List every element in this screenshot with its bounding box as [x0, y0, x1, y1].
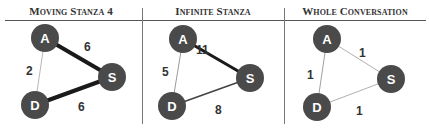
edge-weight-label: 1: [307, 68, 314, 82]
node-label: S: [387, 72, 396, 87]
network-graphs: 626ASD1158ASD111ASD: [0, 0, 429, 130]
node-label: A: [178, 32, 188, 47]
graph-panel-1: 1158ASD: [158, 25, 264, 120]
edge-weight-label: 5: [162, 65, 169, 79]
edge-weight-label: 6: [84, 40, 91, 54]
node-label: D: [167, 99, 176, 114]
graph-panel-0: 626ASD: [21, 24, 126, 119]
node-label: A: [322, 32, 332, 47]
node-label: A: [40, 31, 50, 46]
graph-panel-2: 111ASD: [303, 25, 405, 121]
edge-weight-label: 6: [78, 100, 85, 114]
edge-weight-label: 1: [356, 104, 363, 118]
node-label: S: [108, 70, 117, 85]
edge-weight-label: 2: [26, 64, 33, 78]
edge-weight-label: 8: [215, 103, 222, 117]
edge-weight-label: 1: [359, 46, 366, 60]
node-label: D: [30, 98, 39, 113]
node-label: S: [246, 71, 255, 86]
edge-weight-label: 11: [196, 43, 209, 57]
node-label: D: [312, 100, 321, 115]
